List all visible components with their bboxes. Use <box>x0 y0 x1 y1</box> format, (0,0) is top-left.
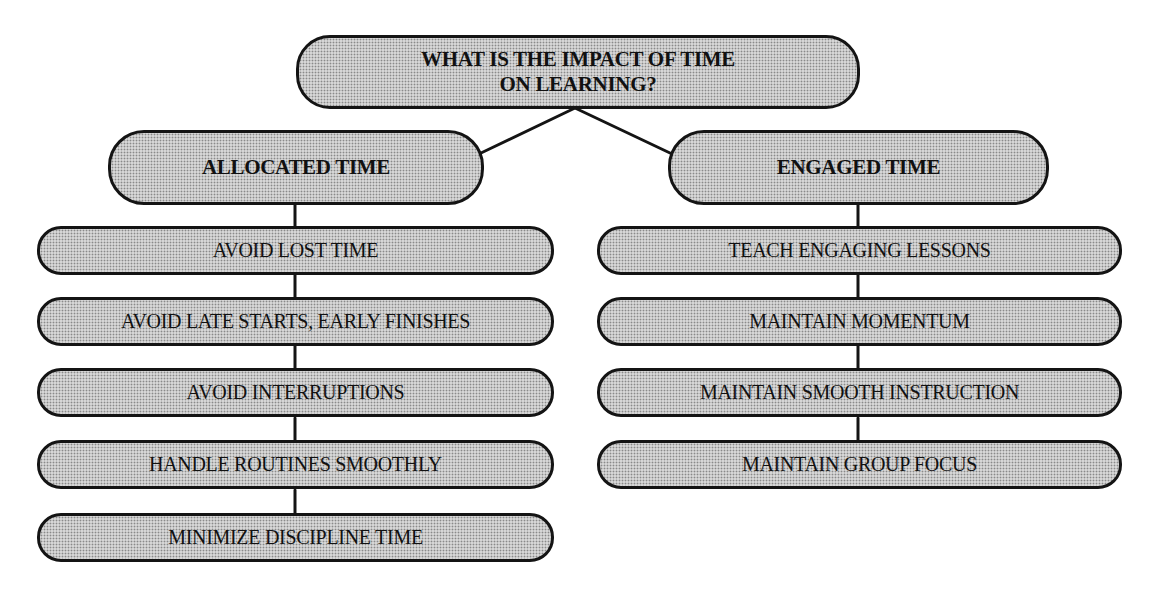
leaf-node-avoid-lost-time: AVOID LOST TIME <box>37 226 554 275</box>
leaf-node-label: MAINTAIN MOMENTUM <box>749 310 970 334</box>
leaf-node-label: AVOID INTERRUPTIONS <box>187 381 405 405</box>
root-node-line-2: ON LEARNING? <box>421 72 735 97</box>
leaf-node-avoid-late-starts: AVOID LATE STARTS, EARLY FINISHES <box>37 297 554 346</box>
leaf-node-label: MAINTAIN SMOOTH INSTRUCTION <box>700 381 1019 405</box>
leaf-node-label: TEACH ENGAGING LESSONS <box>728 239 990 263</box>
branch-node-label: ALLOCATED TIME <box>202 155 390 180</box>
leaf-node-avoid-interruptions: AVOID INTERRUPTIONS <box>37 368 554 417</box>
leaf-node-maintain-momentum: MAINTAIN MOMENTUM <box>597 297 1122 346</box>
connector-root-allocated <box>481 108 575 153</box>
root-node-line-1: WHAT IS THE IMPACT OF TIME <box>421 47 735 72</box>
leaf-node-label: HANDLE ROUTINES SMOOTHLY <box>149 453 442 477</box>
leaf-node-label: AVOID LOST TIME <box>213 239 379 263</box>
leaf-node-maintain-group-focus: MAINTAIN GROUP FOCUS <box>597 440 1122 489</box>
concept-diagram: WHAT IS THE IMPACT OF TIME ON LEARNING? … <box>0 0 1152 592</box>
branch-node-allocated-time: ALLOCATED TIME <box>108 130 484 205</box>
leaf-node-maintain-smooth-instruction: MAINTAIN SMOOTH INSTRUCTION <box>597 368 1122 417</box>
leaf-node-label: MINIMIZE DISCIPLINE TIME <box>168 526 423 550</box>
leaf-node-label: AVOID LATE STARTS, EARLY FINISHES <box>121 310 470 334</box>
branch-node-label: ENGAGED TIME <box>777 155 940 180</box>
leaf-node-minimize-discipline: MINIMIZE DISCIPLINE TIME <box>37 513 554 562</box>
connector-root-engaged <box>575 108 670 153</box>
branch-node-engaged-time: ENGAGED TIME <box>668 130 1049 205</box>
leaf-node-label: MAINTAIN GROUP FOCUS <box>742 453 977 477</box>
root-node-question: WHAT IS THE IMPACT OF TIME ON LEARNING? <box>296 35 860 109</box>
leaf-node-teach-engaging-lessons: TEACH ENGAGING LESSONS <box>597 226 1122 275</box>
leaf-node-handle-routines: HANDLE ROUTINES SMOOTHLY <box>37 440 554 489</box>
